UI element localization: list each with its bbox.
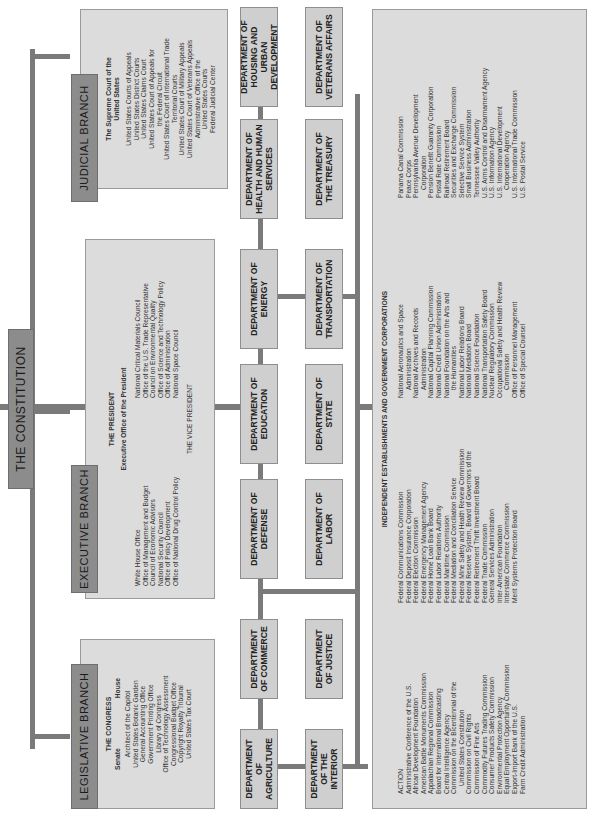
org-chart: THE CONSTITUTION LEGISLATIVE BRANCH THE … bbox=[0, 0, 593, 819]
agency-item: U.S. Arms Control and Disarmament Agency bbox=[481, 68, 489, 198]
court-item: United States Claims Court bbox=[140, 10, 148, 188]
dept-hud: DEPARTMENT OF HOUSING AND URBAN DEVELOPM… bbox=[240, 7, 278, 107]
agency-item: Architect of the Capitol bbox=[124, 640, 132, 808]
agency-item: Federal Mediation and Conciliation Servi… bbox=[450, 449, 458, 603]
agency-item: United States Botanic Garden bbox=[132, 640, 140, 808]
agency-item: Appalachian Regional Commission bbox=[427, 665, 435, 794]
agency-item: National Credit Union Administration bbox=[435, 282, 443, 398]
court-item: Territorial Courts bbox=[171, 10, 179, 188]
connector-row2 bbox=[355, 94, 360, 769]
agency-item: Federal Communications Commission bbox=[397, 449, 405, 603]
judicial-label: JUDICIAL BRANCH bbox=[81, 85, 89, 191]
agency-item: Office of Technology Assessment bbox=[162, 640, 170, 808]
agency-item: Pennsylvania Avenue Development bbox=[412, 68, 420, 198]
agency-item: National Foundation on the Arts and bbox=[443, 282, 451, 398]
constitution-label: THE CONSTITUTION bbox=[14, 346, 28, 471]
dept-justice: DEPARTMENT OF JUSTICE bbox=[305, 619, 343, 699]
dept-label: DEPARTMENT OF EDUCATION bbox=[249, 368, 269, 460]
agency-item: Consumer Products Safety Commission bbox=[488, 665, 496, 794]
agency-item: National Mediation Board bbox=[465, 282, 473, 398]
eop-item: Office of the U.S. Trade Representative bbox=[142, 281, 150, 398]
agency-item: Farm Credit Administration bbox=[519, 665, 527, 794]
agency-item: Congressional Budget Office bbox=[170, 640, 178, 808]
independent-panel: INDEPENDENT ESTABLISHMENTS AND GOVERNMEN… bbox=[372, 9, 587, 809]
dept-commerce: DEPARTMENT OF COMMERCE bbox=[240, 619, 278, 699]
court-item: United States Courts bbox=[201, 10, 209, 188]
dept-treasury: DEPARTMENT OF THE TREASURY bbox=[305, 119, 343, 219]
eop-item: Council of Economic Advisors bbox=[149, 477, 157, 586]
connector-executive bbox=[30, 409, 70, 414]
dept-label: DEPARTMENT OF DEFENSE bbox=[249, 483, 269, 575]
agency-item: General Services Administration bbox=[488, 449, 496, 603]
dept-hhs: DEPARTMENT OF HEALTH AND HUMAN SERVICES bbox=[240, 119, 278, 219]
agency-item: Federal Election Commission bbox=[412, 449, 420, 603]
agency-item: Board for International Broadcasting bbox=[435, 665, 443, 794]
dept-interior: DEPARTMENT OF THE INTERIOR bbox=[305, 729, 343, 809]
agency-item: National Science Foundation bbox=[473, 282, 481, 398]
legislative-panel: LEGISLATIVE BRANCH THE CONGRESS Senate H… bbox=[80, 639, 215, 809]
connector-judicial bbox=[30, 54, 70, 59]
agency-item: Tennessee Valley Authority bbox=[473, 68, 481, 198]
eop-title: Executive Office of the President bbox=[120, 240, 128, 598]
agency-item: Equal Employment Opportunity Commission bbox=[503, 665, 511, 794]
supreme-court-line2: United States bbox=[113, 10, 121, 188]
independent-col4: Panama Canal Commission Peace Corps Penn… bbox=[397, 68, 526, 198]
dept-label: DEPARTMENT OF LABOR bbox=[314, 483, 334, 575]
agency-item: Occupational Safety and Health Review bbox=[496, 282, 504, 398]
agency-item: ACTION bbox=[397, 665, 405, 794]
agency-item: Commodity Futures Trading Commission bbox=[481, 665, 489, 794]
agency-item: National Archives and Records bbox=[412, 282, 420, 398]
agency-item: Office of Personnel Management bbox=[511, 282, 519, 398]
dept-label: DEPARTMENT OF THE INTERIOR bbox=[309, 733, 339, 805]
agency-item: Office of Special Counsel bbox=[519, 282, 527, 398]
agency-item: Postal Rate Commission bbox=[435, 68, 443, 198]
agency-item: Federal Deposit Insurance Corporation bbox=[405, 449, 413, 603]
agency-item: Small Business Administration bbox=[465, 68, 473, 198]
executive-panel: EXECUTIVE BRANCH THE PRESIDENT Executive… bbox=[85, 239, 215, 599]
agency-item: Federal Mine Safety and Health Review Co… bbox=[458, 449, 466, 603]
agency-item: Pension Benefit Guaranty Corporation bbox=[427, 68, 435, 198]
dept-energy: DEPARTMENT OF ENERGY bbox=[240, 249, 278, 349]
agency-item: Copyright Royalty Tribunal bbox=[177, 640, 185, 808]
dept-label: DEPARTMENT OF STATE bbox=[314, 368, 334, 460]
court-item: United States Court of Veterans Appeals bbox=[186, 10, 194, 188]
agency-item: Commission on the Bicentennial of the bbox=[450, 665, 458, 794]
agency-item: United States Constitution bbox=[458, 665, 466, 794]
agency-item: Administration bbox=[420, 282, 428, 398]
agency-item: Federal Emergency Management Agency bbox=[420, 449, 428, 603]
connector-mid1 bbox=[258, 589, 358, 594]
congress-title: THE CONGRESS bbox=[105, 640, 113, 808]
independent-title: INDEPENDENT ESTABLISHMENTS AND GOVERNMEN… bbox=[381, 10, 389, 808]
agency-item: Federal Labor Relations Authority bbox=[435, 449, 443, 603]
eop-item: National Critical Materials Council bbox=[134, 281, 142, 398]
agency-item: Nuclear Regulatory Commission bbox=[488, 282, 496, 398]
agency-item: Peace Corps bbox=[405, 68, 413, 198]
connector-legislative bbox=[30, 734, 70, 739]
executive-branch-header: EXECUTIVE BRANCH bbox=[71, 465, 98, 593]
agency-item: U.S. Information Agency bbox=[488, 68, 496, 198]
agency-item: National Aeronautics and Space bbox=[397, 282, 405, 398]
agency-item: Commission of Fine Arts bbox=[473, 665, 481, 794]
agency-item: Securities and Exchange Commission bbox=[450, 68, 458, 198]
court-item: United States Court of Military Appeals bbox=[178, 10, 186, 188]
agency-item: Corporation bbox=[420, 68, 428, 198]
constitution-box: THE CONSTITUTION bbox=[8, 329, 34, 489]
eop-item: National Security Council bbox=[157, 477, 165, 586]
judicial-content: The Supreme Court of the United States U… bbox=[105, 10, 216, 188]
eop-list-right: National Critical Materials Council Offi… bbox=[134, 281, 180, 398]
court-item: United States District Courts bbox=[133, 10, 141, 188]
eop-item: Office of Policy Development bbox=[164, 477, 172, 586]
agency-item: Federal Trade Commission bbox=[481, 449, 489, 603]
executive-label: EXECUTIVE BRANCH bbox=[81, 469, 89, 589]
eop-item: Office of National Drug Control Policy bbox=[172, 477, 180, 586]
dept-label: DEPARTMENT OF ENERGY bbox=[249, 253, 269, 345]
court-item: United States Court of International Tra… bbox=[163, 10, 171, 188]
agency-item: Administration bbox=[405, 282, 413, 398]
dept-label: DEPARTMENT OF THE TREASURY bbox=[314, 123, 334, 215]
agency-item: Government Printing Office bbox=[147, 640, 155, 808]
judicial-branch-header: JUDICIAL BRANCH bbox=[71, 74, 98, 202]
agency-item: Central Intelligence Agency bbox=[443, 665, 451, 794]
agency-item: United States Tax Court bbox=[185, 640, 193, 808]
legislative-branch-header: LEGISLATIVE BRANCH bbox=[71, 664, 98, 809]
court-item: Federal Judicial Center bbox=[209, 10, 217, 188]
